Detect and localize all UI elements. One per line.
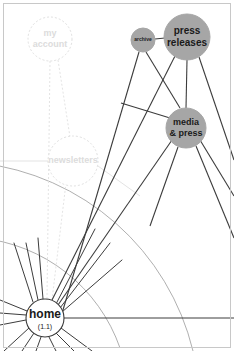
graph-svg: my account newsletters archive press rel… — [0, 0, 234, 351]
edge-press-releases-media-press — [186, 60, 187, 108]
node-press-releases[interactable]: press releases — [164, 14, 210, 60]
node-my-account-label-line2: account — [33, 39, 68, 49]
home-spoke — [60, 243, 110, 308]
node-home[interactable]: home (1.1) — [26, 299, 64, 337]
edge-archive-press-releases — [155, 38, 165, 39]
ghost-edge-my-account-newsletters — [58, 60, 70, 137]
node-archive[interactable]: archive — [131, 28, 155, 52]
edge-press-releases-outbound — [199, 57, 234, 160]
home-spoke — [0, 300, 27, 311]
sitemap-graph-canvas[interactable]: my account newsletters archive press rel… — [0, 0, 234, 351]
node-media-press[interactable]: media & press — [166, 108, 206, 148]
home-spoke — [49, 337, 56, 351]
node-my-account[interactable]: my account — [28, 17, 72, 61]
node-press-releases-label-line2: releases — [167, 37, 207, 48]
node-newsletters[interactable]: newsletters — [48, 136, 98, 186]
node-media-press-label-line1: media — [173, 117, 200, 127]
node-media-press-label-line2: & press — [169, 128, 202, 138]
ghost-edge-my-account-home — [47, 61, 50, 299]
node-my-account-label-line1: my — [43, 28, 56, 38]
node-home-label: home — [29, 307, 61, 321]
edge-media-press-outbound-c — [150, 147, 178, 226]
edge-media-press-outbound-a — [196, 146, 234, 238]
home-spoke — [14, 243, 33, 302]
home-spoke — [36, 337, 41, 351]
home-spoke — [38, 238, 43, 299]
ghost-edge-newsletters-home — [52, 183, 66, 300]
node-press-releases-label-line1: press — [174, 25, 201, 36]
edge-media-press-outbound-d — [121, 103, 170, 118]
node-archive-label: archive — [134, 36, 152, 42]
home-spoke — [22, 333, 34, 351]
node-newsletters-label: newsletters — [48, 155, 98, 165]
node-home-sublabel: (1.1) — [38, 323, 52, 331]
edge-archive-media-press — [146, 52, 180, 108]
